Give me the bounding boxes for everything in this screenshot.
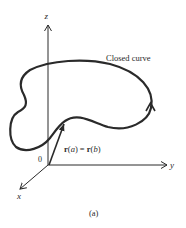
vector-label: r(a) = r(b) xyxy=(64,144,101,154)
figure-caption: (a) xyxy=(89,208,99,218)
vector-label-rhs-close: ) xyxy=(98,144,101,154)
z-axis-label: z xyxy=(44,11,49,21)
y-axis-label: y xyxy=(169,160,174,170)
curve-label: Closed curve xyxy=(106,53,151,63)
x-axis xyxy=(20,165,48,189)
x-axis-label: x xyxy=(16,191,21,201)
origin-label: 0 xyxy=(38,155,42,164)
closed-curve-diagram: z y x 0 Closed curve r(a) = r(b) (a) xyxy=(0,0,186,228)
closed-curve xyxy=(10,61,151,150)
vector-label-eq: = xyxy=(78,144,87,154)
